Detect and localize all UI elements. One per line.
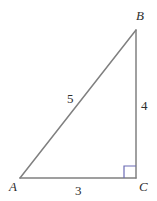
vertex-label-c: C [139,180,148,193]
vertex-label-a: A [9,180,17,193]
triangle-canvas [0,0,157,201]
segment-ab [20,30,136,178]
side-length-label-ac: 3 [75,184,82,197]
triangle-figure: A B C 5 4 3 [0,0,157,201]
side-length-label-bc: 4 [141,99,148,112]
right-angle-marker-icon [124,166,136,178]
vertex-label-b: B [136,9,144,22]
side-length-label-ab: 5 [67,92,74,105]
